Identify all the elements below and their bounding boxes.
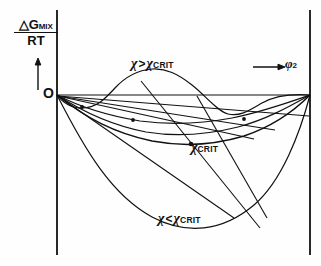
up-arrow-icon [35, 58, 41, 90]
point-binodal-right [242, 117, 246, 121]
crit-subscript: CRIT [198, 144, 219, 154]
label-chi-less-than-crit: χ<χCRIT [158, 212, 201, 226]
comparison-operator: > [138, 57, 147, 71]
label-chi-greater-than-crit: χ>χCRIT [131, 57, 174, 71]
crit-subscript: CRIT [153, 60, 174, 70]
free-energy-curves [57, 69, 310, 228]
common-tangent-line-3 [58, 96, 254, 139]
chi-symbol: χ [158, 211, 165, 226]
curve-intermediate-2 [57, 95, 310, 135]
y-axis-numerator-subscript: MIX [39, 22, 53, 31]
curve-chi-critical [57, 95, 310, 144]
comparison-operator: < [165, 212, 174, 226]
crit-subscript: CRIT [180, 215, 201, 225]
label-chi-critical: χCRIT [191, 141, 218, 155]
phi-symbol: φ [285, 56, 293, 71]
free-energy-of-mixing-figure: △GMIX RT O χ>χCRIT χCRIT χ<χCRIT φ2 [0, 0, 321, 266]
point-binodal-mid [131, 118, 135, 122]
point-binodal-left [80, 105, 84, 109]
right-arrow-icon [253, 64, 285, 70]
origin-label: O [43, 86, 54, 100]
y-axis-numerator: △GMIX [12, 18, 60, 32]
x-axis-label: φ2 [285, 57, 297, 70]
tangent-construction-lines [58, 81, 309, 228]
chi-symbol: χ [131, 56, 138, 71]
y-axis-label: △GMIX RT [12, 18, 60, 47]
y-axis-denominator: RT [12, 33, 60, 47]
phi-subscript: 2 [293, 61, 297, 70]
